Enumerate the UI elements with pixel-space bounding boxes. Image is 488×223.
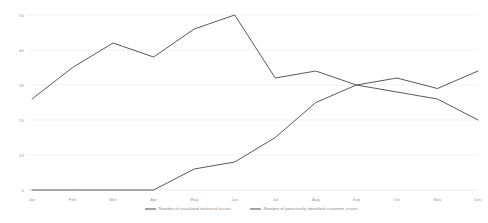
series-line-1: [32, 71, 478, 190]
x-tick-label-apr: Apr: [150, 197, 157, 202]
x-tick-label-jul: Jul: [272, 197, 278, 202]
chart-legend: Number of escalated technical issuesNumb…: [145, 206, 359, 211]
data-series-lines: [32, 15, 478, 190]
x-tick-label-feb: Feb: [69, 197, 77, 202]
y-tick-label: 10: [19, 153, 24, 158]
x-tick-label-oct: Oct: [393, 197, 401, 202]
y-tick-label: 20: [19, 118, 24, 123]
x-tick-label-jan: Jan: [28, 197, 36, 202]
gridlines: [28, 15, 478, 190]
legend-label-1: Number of proactively identified custome…: [264, 206, 359, 211]
x-tick-label-aug: Aug: [312, 197, 320, 202]
x-tick-label-dec: Dec: [474, 197, 483, 202]
series-line-0: [32, 15, 478, 120]
y-tick-label: 0: [22, 188, 25, 193]
x-tick-label-may: May: [190, 197, 199, 202]
x-axis-tick-labels: JanFebMarAprMayJunJulAugSepOctNovDec: [28, 197, 482, 202]
legend-label-0: Number of escalated technical issues: [159, 206, 233, 211]
y-tick-label: 40: [19, 48, 24, 53]
line-chart-figure: 01020304050 JanFebMarAprMayJunJulAugSepO…: [0, 0, 488, 223]
x-tick-label-mar: Mar: [109, 197, 117, 202]
y-tick-label: 50: [19, 13, 24, 18]
y-tick-label: 30: [19, 83, 24, 88]
y-axis-tick-labels: 01020304050: [19, 13, 24, 193]
chart-plot-area: 01020304050 JanFebMarAprMayJunJulAugSepO…: [0, 0, 488, 223]
x-tick-label-jun: Jun: [231, 197, 239, 202]
x-tick-label-sep: Sep: [352, 197, 360, 202]
x-tick-label-nov: Nov: [434, 197, 443, 202]
